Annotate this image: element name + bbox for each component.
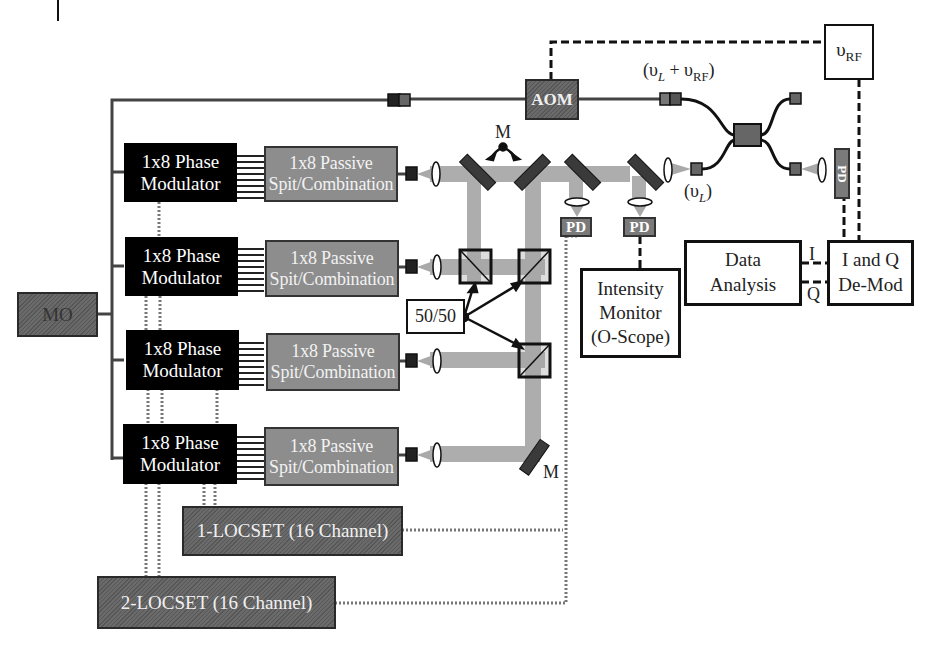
passive-combiner-3: 1x8 PassiveSpit/Combination (266, 333, 400, 391)
master-oscillator: MO (17, 292, 98, 337)
rf-source: υRF (824, 24, 874, 80)
fiber-ribbons (237, 156, 264, 479)
photodetector-1: PD (560, 217, 592, 237)
coupler-body (734, 124, 761, 146)
aom-label: AOM (531, 90, 573, 110)
passive-combiner-4: 1x8 PassiveSpit/Combination (264, 427, 399, 486)
photodetector-heterodyne: PD (834, 148, 850, 199)
mirror-actuator (488, 144, 519, 161)
local-frequency-label: (υL) (684, 181, 712, 206)
mo-label: MO (42, 304, 73, 326)
mirror-label-top: M (495, 122, 511, 143)
i-signal-label: I (809, 244, 815, 265)
phase-modulator-1: 1x8 PhaseModulator (124, 143, 237, 202)
passive-combiner-2: 1x8 PassiveSpit/Combination (265, 240, 399, 297)
splitter-pointers (460, 282, 522, 348)
aom: AOM (525, 79, 579, 120)
intensity-monitor: Intensity Monitor (O-Scope) (580, 268, 681, 358)
passive-combiner-1: 1x8 PassiveSpit/Combination (264, 146, 398, 202)
locset-controller-2: 2-LOCSET (16 Channel) (97, 576, 336, 629)
phase-modulator-4: 1x8 PhaseModulator (123, 424, 237, 484)
phase-modulator-2: 1x8 PhaseModulator (125, 237, 238, 296)
iq-demodulator: I and Q De-Mod (827, 240, 914, 306)
mirror-label-bottom: M (543, 462, 559, 483)
phase-modulator-3: 1x8 PhaseModulator (126, 330, 239, 390)
diagram-connections (0, 0, 933, 647)
rf-source-label: υRF (836, 39, 862, 64)
data-analysis: Data Analysis (684, 240, 802, 306)
splitter-50-50: 50/50 (406, 299, 465, 334)
locset-controller-1: 1-LOCSET (16 Channel) (182, 506, 403, 556)
q-signal-label: Q (807, 284, 820, 305)
photodetector-2: PD (623, 217, 656, 237)
shifted-frequency-label: (υL + υRF) (643, 60, 714, 85)
